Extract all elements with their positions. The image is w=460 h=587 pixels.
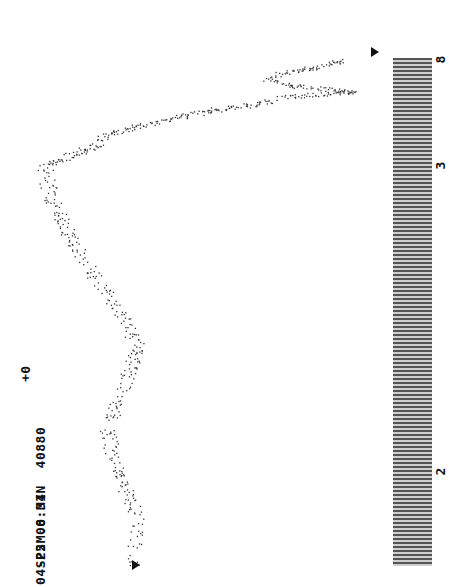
spectrum-trace bbox=[0, 0, 460, 587]
start-marker-icon bbox=[132, 560, 140, 570]
end-marker-icon bbox=[371, 47, 379, 57]
